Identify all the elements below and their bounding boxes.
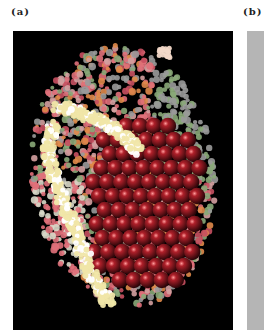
panel-a-label: (a) <box>11 6 30 17</box>
molecular-model <box>13 31 233 330</box>
panel-b-image <box>247 31 264 330</box>
panel-a-image <box>13 31 233 330</box>
panel-b-label: (b) <box>243 6 262 17</box>
